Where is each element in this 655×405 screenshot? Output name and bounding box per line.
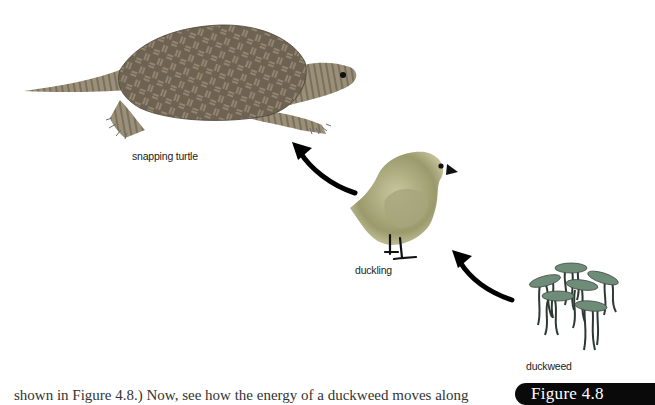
label-snapping-turtle: snapping turtle bbox=[132, 150, 198, 162]
duckling-beak bbox=[446, 164, 458, 175]
duckweed-illustration bbox=[528, 263, 620, 350]
arrow-duckling-to-turtle bbox=[292, 142, 355, 193]
turtle-tail bbox=[24, 68, 130, 92]
body-text-fragment: shown in Figure 4.8.) Now, see how the e… bbox=[14, 387, 468, 404]
turtle-shell bbox=[118, 25, 306, 120]
figure-badge-label: Figure 4.8 bbox=[531, 384, 604, 404]
duckweed-frond bbox=[565, 278, 598, 292]
duckling-eye bbox=[438, 163, 443, 168]
duckweed-frond bbox=[542, 291, 574, 301]
figure-badge: Figure 4.8 bbox=[515, 383, 655, 405]
turtle-eye bbox=[340, 72, 346, 78]
duckweed-frond bbox=[528, 272, 561, 290]
label-duckling: duckling bbox=[355, 264, 392, 276]
arrow-duckweed-to-duckling bbox=[452, 250, 512, 300]
snapping-turtle-illustration bbox=[24, 25, 356, 139]
duckling-illustration bbox=[350, 152, 458, 259]
duckweed-frond bbox=[555, 263, 587, 273]
label-duckweed: duckweed bbox=[526, 360, 572, 372]
duckweed-frond bbox=[575, 299, 608, 312]
